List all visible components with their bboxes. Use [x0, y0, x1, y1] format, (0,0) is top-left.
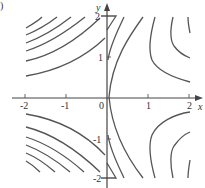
y-tick-label: 2 [95, 11, 100, 22]
x-tick-label: 1 [146, 100, 151, 111]
contour-plot: ) x [0, 0, 205, 188]
y-axis-arrow-icon [104, 3, 110, 11]
x-tick-label: -2 [20, 100, 28, 111]
x-ticks: -2 -1 0 1 2 [20, 94, 192, 111]
y-tick-label: -2 [93, 173, 101, 184]
panel-label: ) [0, 0, 3, 12]
y-tick-label: 1 [98, 52, 103, 63]
x-axis-label: x [197, 101, 203, 112]
contours-upper-left [26, 16, 116, 76]
x-tick-label: 0 [99, 100, 104, 111]
contours-lower-left [26, 114, 116, 178]
x-tick-label: 2 [187, 100, 192, 111]
x-tick-label: -1 [61, 100, 69, 111]
y-tick-label: -1 [93, 134, 101, 145]
